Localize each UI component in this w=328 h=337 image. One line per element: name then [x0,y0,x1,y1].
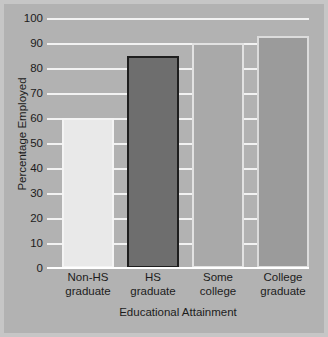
x-tick-college-graduate: College graduate [247,271,319,298]
y-tick-90: 90 [3,37,43,49]
bar-hs-graduate-fill [127,56,179,269]
x-tick-some-college-line2: college [182,285,254,299]
gridline-100 [47,18,309,20]
x-tick-some-college-line1: Some [182,271,254,285]
x-axis-title: Educational Attainment [47,306,309,318]
x-axis-tick-labels: Non-HS graduate HS graduate Some college… [47,271,309,305]
x-tick-hs-graduate-line2: graduate [117,285,189,299]
y-tick-100: 100 [3,12,43,24]
x-tick-some-college: Some college [182,271,254,298]
y-axis-title: Percentage Employed [16,54,28,214]
x-tick-non-hs-graduate-line1: Non-HS [52,271,124,285]
x-tick-hs-graduate: HS graduate [117,271,189,298]
x-tick-college-graduate-line1: College [247,271,319,285]
bar-non-hs-graduate-fill [62,118,114,268]
bar-chart-figure: 100 90 80 70 60 50 40 30 20 10 0 [0,0,328,337]
bar-hs-graduate[interactable] [127,56,179,269]
x-tick-hs-graduate-line1: HS [117,271,189,285]
x-tick-college-graduate-line2: graduate [247,285,319,299]
bar-college-graduate-fill [257,36,309,269]
plot-area [47,18,309,268]
x-tick-non-hs-graduate: Non-HS graduate [52,271,124,298]
x-axis-baseline [47,267,309,269]
y-tick-10: 10 [3,237,43,249]
bar-some-college[interactable] [192,43,244,268]
bar-college-graduate[interactable] [257,36,309,269]
bar-non-hs-graduate[interactable] [62,118,114,268]
bar-some-college-fill [192,43,244,268]
x-tick-non-hs-graduate-line2: graduate [52,285,124,299]
y-tick-0: 0 [3,262,43,274]
